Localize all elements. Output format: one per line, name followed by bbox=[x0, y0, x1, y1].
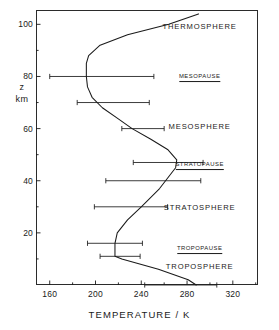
temperature-profile-figure: 16020024028032020406080100THERMOSPHEREME… bbox=[0, 0, 279, 330]
error-bar bbox=[106, 178, 201, 183]
x-tick-label: 160 bbox=[42, 290, 57, 299]
temperature-curve-layer bbox=[0, 0, 279, 330]
x-axis-title: TEMPERATURE / K bbox=[0, 309, 279, 320]
error-bar bbox=[77, 100, 149, 105]
y-tick-label: 40 bbox=[23, 176, 33, 185]
error-bar bbox=[94, 204, 167, 209]
layer-label-stratosphere: STRATOSPHERE bbox=[164, 204, 236, 212]
layer-label-tropopause: TROPOPAUSE bbox=[177, 246, 222, 254]
x-tick-label: 280 bbox=[180, 290, 195, 299]
layer-label-mesosphere: MESOSPHERE bbox=[169, 124, 231, 132]
y-axis-title-line-2: km bbox=[10, 94, 34, 106]
layer-label-mesopause: MESOPAUSE bbox=[179, 74, 220, 82]
y-tick-label: 60 bbox=[23, 124, 33, 133]
x-tick-label: 240 bbox=[134, 290, 149, 299]
y-tick-label: 20 bbox=[23, 229, 33, 238]
y-tick-label: 80 bbox=[23, 72, 33, 81]
error-bar bbox=[50, 74, 154, 79]
layer-label-stratopause: STRATOPAUSE bbox=[175, 162, 223, 170]
layer-label-thermosphere: THERMOSPHERE bbox=[162, 23, 236, 31]
y-axis-title: z km bbox=[10, 82, 34, 105]
x-tick-label: 200 bbox=[88, 290, 103, 299]
error-bar bbox=[122, 126, 164, 131]
error-bar bbox=[145, 282, 217, 287]
x-tick-label: 320 bbox=[225, 290, 240, 299]
layer-label-troposphere: TROPOSPHERE bbox=[166, 263, 234, 271]
y-tick-label: 100 bbox=[18, 20, 33, 29]
y-axis-title-line-1: z bbox=[10, 82, 34, 94]
